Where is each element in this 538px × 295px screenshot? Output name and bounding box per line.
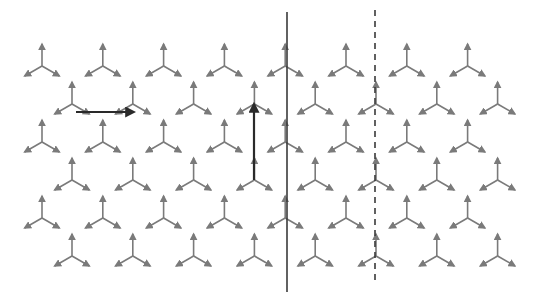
tripod-icon [25, 120, 60, 152]
tripod-icon [146, 196, 181, 228]
tripod-icon [480, 234, 515, 266]
tripod-icon [176, 234, 211, 266]
tripod-icon [25, 44, 60, 76]
tripod-icon [419, 234, 454, 266]
tripod-icon [207, 196, 242, 228]
lattice-diagram [0, 0, 538, 295]
tripod-icon [359, 82, 394, 114]
tripod-icon [450, 196, 485, 228]
tripod-icon [298, 234, 333, 266]
tripod-icon [207, 120, 242, 152]
tripod-icon [55, 234, 90, 266]
tripod-icon [329, 196, 364, 228]
tripod-icon [55, 158, 90, 190]
tripod-icon [329, 44, 364, 76]
tripod-icon [115, 234, 150, 266]
tripod-icon [85, 196, 120, 228]
tripod-icon [389, 44, 424, 76]
tripod-icon [359, 158, 394, 190]
tripod-icon [146, 120, 181, 152]
tripod-icon [85, 44, 120, 76]
tripod-icon [359, 234, 394, 266]
tripod-icon [450, 120, 485, 152]
tripod-icon [176, 158, 211, 190]
tripod-icon [419, 158, 454, 190]
tripod-icon [298, 158, 333, 190]
tripod-icon [207, 44, 242, 76]
tripod-icon [115, 82, 150, 114]
tripod-icon [298, 82, 333, 114]
tripod-icon [85, 120, 120, 152]
tripod-icon [268, 196, 303, 228]
tripod-icon [389, 120, 424, 152]
tripod-icon [450, 44, 485, 76]
tripod-icon [237, 234, 272, 266]
tripod-icon [480, 158, 515, 190]
tripod-icon [25, 196, 60, 228]
tripod-icon [268, 44, 303, 76]
tripod-icon [480, 82, 515, 114]
tripod-group [25, 44, 515, 266]
tripod-icon [146, 44, 181, 76]
tripod-icon [268, 120, 303, 152]
tripod-icon [55, 82, 90, 114]
tripod-icon [115, 158, 150, 190]
tripod-icon [329, 120, 364, 152]
tripod-lattice-svg [0, 0, 538, 295]
tripod-icon [176, 82, 211, 114]
tripod-icon [389, 196, 424, 228]
tripod-icon [419, 82, 454, 114]
